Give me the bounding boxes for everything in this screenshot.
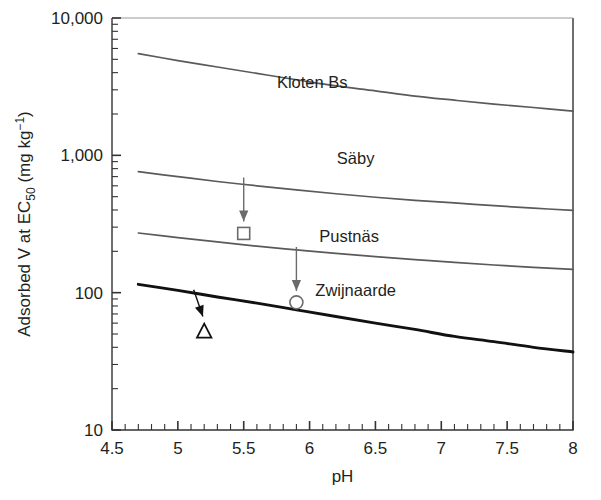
x-tick-label: 5 bbox=[173, 439, 182, 458]
series-label-säby: Säby bbox=[337, 149, 375, 167]
y-tick-label: 10 bbox=[84, 421, 103, 440]
log-line-chart: 10,0001,00010010 4.555.566.577.58 Kloten… bbox=[0, 0, 601, 500]
x-tick-label: 7 bbox=[437, 439, 446, 458]
y-tick-label: 100 bbox=[75, 284, 103, 303]
x-tick-label: 5.5 bbox=[232, 439, 256, 458]
x-axis-title: pH bbox=[332, 467, 354, 486]
x-tick-label: 8 bbox=[568, 439, 577, 458]
x-tick-label: 4.5 bbox=[100, 439, 124, 458]
y-tick-label: 10,000 bbox=[51, 9, 103, 28]
x-tick-label: 6 bbox=[305, 439, 314, 458]
x-tick-label: 6.5 bbox=[364, 439, 388, 458]
series-label-pustnäs: Pustnäs bbox=[319, 227, 379, 245]
x-tick-label: 7.5 bbox=[495, 439, 519, 458]
series-label-zwijnaarde: Zwijnaarde bbox=[315, 281, 396, 299]
y-tick-label: 1,000 bbox=[60, 146, 103, 165]
chart-figure: 10,0001,00010010 4.555.566.577.58 Kloten… bbox=[0, 0, 601, 500]
series-label-kloten-bs: Kloten Bs bbox=[277, 73, 348, 91]
